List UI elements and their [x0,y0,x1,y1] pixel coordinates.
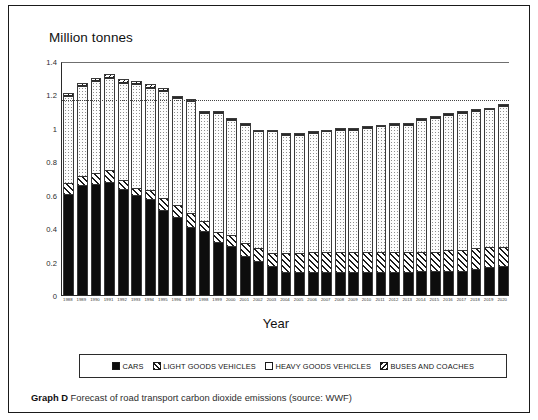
bar-segment-heavy-goods-vehicles [472,111,481,248]
x-tick-label: 2020 [495,297,509,302]
bar-segment-cars [64,195,73,295]
bar-2014 [416,118,427,295]
bar-segment-buses-and-coaches [282,133,291,135]
bar-2019 [484,108,495,295]
x-tick-label: 1998 [197,297,211,302]
bar-segment-cars [417,272,426,295]
x-tick-label: 1992 [115,297,129,302]
bar-segment-light-goods-vehicles [92,173,101,185]
bar-segment-heavy-goods-vehicles [119,83,128,180]
bar-segment-cars [404,273,413,295]
bar-segment-heavy-goods-vehicles [485,109,494,246]
x-tick-label: 2009 [346,297,360,302]
bar-segment-buses-and-coaches [173,96,182,98]
x-tick-label: 2002 [251,297,265,302]
legend-label: CARS [123,362,144,371]
y-tick-label: 0.6 [31,191,57,200]
x-tick-label: 1989 [75,297,89,302]
bar-segment-buses-and-coaches [105,74,114,77]
bar-2000 [226,118,237,295]
bar-segment-light-goods-vehicles [309,252,318,274]
bar-segment-buses-and-coaches [309,131,318,133]
x-tick-label: 2000 [224,297,238,302]
bar-segment-cars [187,228,196,295]
bar-2009 [348,128,359,295]
bar-segment-cars [377,273,386,295]
x-tick-label: 2018 [468,297,482,302]
bar-segment-cars [214,243,223,295]
bar-2016 [443,113,454,295]
chart-legend: CARSLIGHT GOODS VEHICLESHEAVY GOODS VEHI… [79,354,507,378]
bar-segment-heavy-goods-vehicles [173,98,182,205]
bar-segment-cars [159,211,168,295]
bar-segment-buses-and-coaches [119,79,128,82]
x-axis-title: Year [23,316,529,331]
bar-segment-buses-and-coaches [64,93,73,96]
bar-segment-cars [254,262,263,295]
bar-segment-heavy-goods-vehicles [214,113,223,232]
bar-segment-buses-and-coaches [295,133,304,135]
bar-segment-heavy-goods-vehicles [363,128,372,252]
bar-segment-light-goods-vehicles [336,252,345,274]
bar-segment-heavy-goods-vehicles [444,115,453,250]
x-tick-label: 2016 [441,297,455,302]
bar-segment-cars [485,268,494,295]
x-tick-label: 2014 [414,297,428,302]
bar-segment-buses-and-coaches [472,109,481,111]
bar-segment-heavy-goods-vehicles [268,131,277,253]
bar-segment-cars [282,273,291,295]
bar-segment-light-goods-vehicles [485,247,494,269]
chart-figure: Million tonnes 00.20.40.60.811.21.4 1988… [23,18,529,378]
bar-segment-buses-and-coaches [458,111,467,113]
bar-1994 [145,84,156,295]
bar-segment-light-goods-vehicles [404,252,413,274]
bar-segment-buses-and-coaches [159,88,168,91]
bar-segment-buses-and-coaches [92,78,101,81]
x-tick-label: 2019 [482,297,496,302]
bar-segment-light-goods-vehicles [187,213,196,228]
bar-segment-light-goods-vehicles [64,183,73,195]
x-tick-label: 2007 [319,297,333,302]
x-tick-label: 2010 [360,297,374,302]
x-tick-label: 1991 [102,297,116,302]
legend-item-cars: CARS [112,362,144,371]
bar-segment-heavy-goods-vehicles [417,120,426,252]
plot-area [61,62,509,296]
bar-segment-heavy-goods-vehicles [200,113,209,222]
x-tick-label: 2013 [400,297,414,302]
bar-segment-cars [268,267,277,295]
x-tick-label: 1994 [142,297,156,302]
caption-label: Graph D [31,392,68,403]
bar-segment-light-goods-vehicles [458,250,467,272]
bar-segment-light-goods-vehicles [417,252,426,272]
bar-segment-light-goods-vehicles [214,232,223,244]
bar-1990 [91,78,102,295]
bar-segment-buses-and-coaches [214,111,223,113]
bar-2010 [362,126,373,295]
x-tick-label: 1995 [156,297,170,302]
bar-2012 [389,123,400,295]
bar-2013 [403,123,414,295]
bar-1988 [63,93,74,295]
bar-1995 [158,88,169,295]
x-tick-label: 1990 [88,297,102,302]
bar-segment-cars [132,196,141,295]
bar-segment-light-goods-vehicles [377,252,386,274]
legend-label: LIGHT GOODS VEHICLES [163,362,256,371]
y-axis-ticks: 00.20.40.60.811.21.4 [23,62,57,296]
y-tick-label: 0.2 [31,258,57,267]
bar-segment-heavy-goods-vehicles [105,78,114,170]
bar-segment-heavy-goods-vehicles [377,126,386,251]
bar-segment-light-goods-vehicles [105,170,114,183]
bar-segment-cars [92,185,101,295]
bar-segment-cars [200,232,209,296]
bar-segment-cars [241,257,250,295]
x-tick-label: 1997 [183,297,197,302]
bar-1989 [77,83,88,295]
bar-segment-buses-and-coaches [78,83,87,86]
bar-segment-light-goods-vehicles [431,252,440,272]
dotted-white-swatch [265,362,273,370]
bar-segment-light-goods-vehicles [173,205,182,218]
bar-segment-buses-and-coaches [390,123,399,125]
legend-item-heavy-goods-vehicles: HEAVY GOODS VEHICLES [265,362,371,371]
